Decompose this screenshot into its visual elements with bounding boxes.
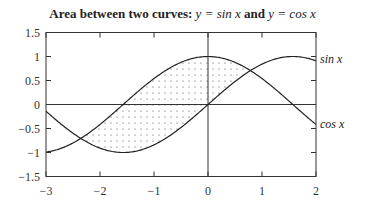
x-tick-label: −2	[94, 184, 107, 198]
y-tick-label: 1	[34, 50, 40, 64]
y-tick-label: 1.5	[25, 26, 40, 40]
x-tick-labels: −3−2−1012	[40, 184, 319, 198]
y-tick-label: 0.5	[25, 74, 40, 88]
y-tick-label: −1.5	[18, 170, 40, 184]
x-tick-label: 2	[313, 184, 319, 198]
sin-label: sin x	[320, 52, 343, 66]
x-tick-label: 0	[205, 184, 211, 198]
y-tick-label: 0	[34, 98, 40, 112]
y-tick-label: −0.5	[18, 122, 40, 136]
x-tick-label: 1	[259, 184, 265, 198]
cos-label: cos x	[320, 117, 345, 131]
x-tick-label: −3	[40, 184, 53, 198]
plot-area: −3−2−1012 1.510.50−0.5−1−1.5 sin x cos x	[0, 0, 365, 212]
y-tick-labels: 1.510.50−0.5−1−1.5	[18, 26, 40, 184]
x-tick-label: −1	[148, 184, 161, 198]
y-tick-label: −1	[27, 146, 40, 160]
